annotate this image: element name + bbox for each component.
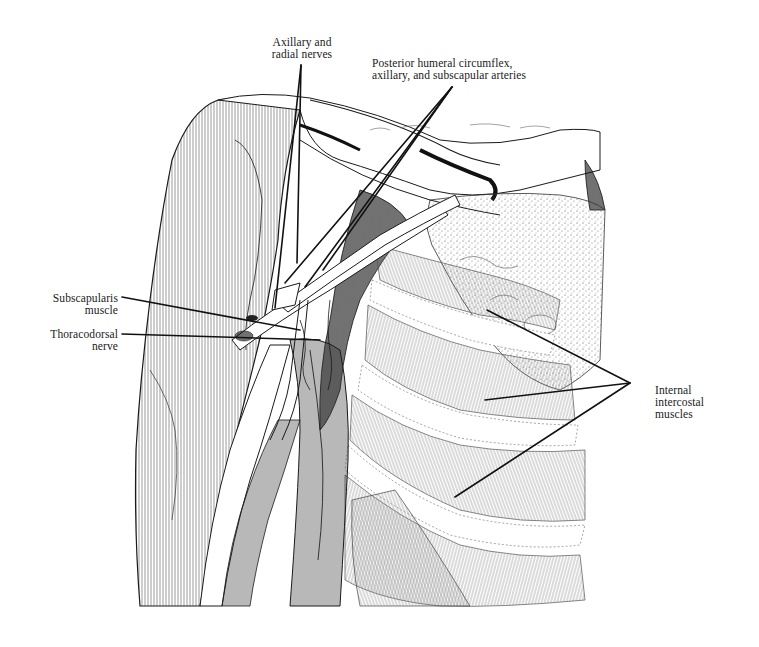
- label-line: Axillary and: [262, 36, 342, 48]
- label-line: muscle: [20, 304, 118, 316]
- label-arteries: Posterior humeral circumflex, axillary, …: [372, 57, 526, 81]
- label-line: axillary, and subscapular arteries: [372, 69, 526, 81]
- label-internal-intercostal-muscles: Internal intercostal muscles: [655, 384, 704, 420]
- label-thoracodorsal-nerve: Thoracodorsal nerve: [20, 328, 118, 352]
- label-axillary-radial-nerves: Axillary and radial nerves: [262, 36, 342, 60]
- label-line: Thoracodorsal: [20, 328, 118, 340]
- label-line: Internal: [655, 384, 704, 396]
- label-line: Posterior humeral circumflex,: [372, 57, 526, 69]
- label-line: nerve: [20, 340, 118, 352]
- latissimus-region: [290, 339, 348, 606]
- label-line: Subscapularis: [20, 292, 118, 304]
- label-line: muscles: [655, 408, 704, 420]
- anatomy-figure: Axillary and radial nerves Posterior hum…: [0, 0, 759, 647]
- axilla-illustration: [0, 0, 759, 647]
- label-subscapularis-muscle: Subscapularis muscle: [20, 292, 118, 316]
- arm-region: [136, 98, 301, 606]
- label-line: intercostal: [655, 396, 704, 408]
- ribcage-region: [345, 245, 585, 606]
- label-line: radial nerves: [262, 48, 342, 60]
